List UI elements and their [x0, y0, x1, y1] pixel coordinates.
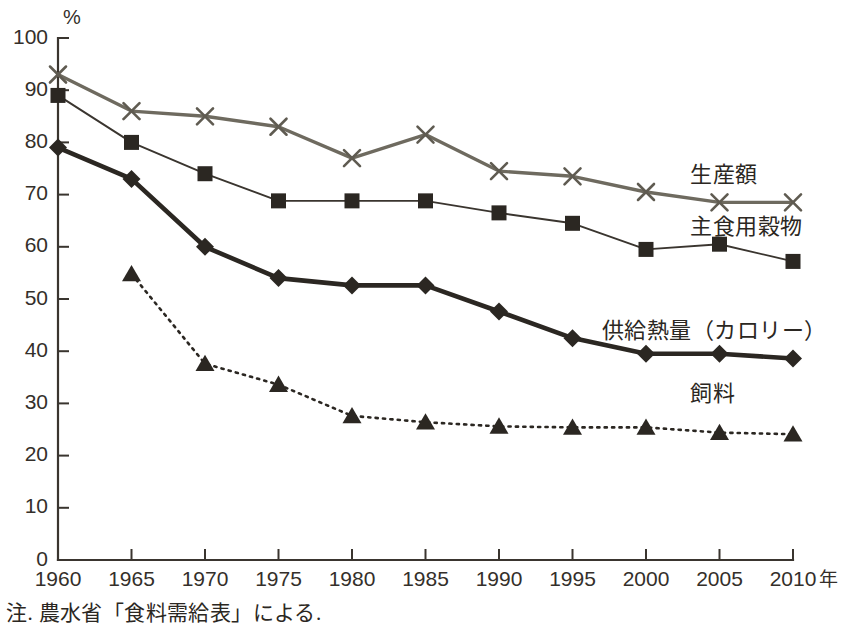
marker-square-staple-grain [271, 193, 286, 208]
series-line-staple-grain [58, 95, 793, 261]
chart-footnote: 注. 農水省「食料需給表」による. [6, 596, 322, 626]
marker-diamond-calorie [270, 269, 288, 287]
y-tick-label: 80 [25, 129, 48, 152]
marker-diamond-calorie [711, 345, 729, 363]
x-tick-label: 2005 [696, 567, 743, 590]
marker-diamond-calorie [49, 139, 67, 157]
x-tick-label: 1970 [182, 567, 229, 590]
x-tick-label: 2010 [770, 567, 817, 590]
y-tick-label: 60 [25, 233, 48, 256]
marker-square-staple-grain [639, 242, 654, 257]
y-tick-label: 90 [25, 77, 48, 100]
marker-diamond-calorie [417, 276, 435, 294]
x-tick-label: 1975 [255, 567, 302, 590]
y-tick-label: 100 [13, 25, 48, 48]
y-tick-label: 40 [25, 338, 48, 361]
x-tick-label: 1980 [329, 567, 376, 590]
series-staple-grain [51, 88, 801, 269]
series-label-feed: 飼料 [690, 381, 735, 406]
y-tick-label: 70 [25, 181, 48, 204]
marker-triangle-feed [563, 418, 582, 434]
series-label-production: 生産額 [690, 162, 758, 187]
x-axis-name-label: 年 [819, 569, 838, 590]
marker-square-staple-grain [565, 216, 580, 231]
marker-square-staple-grain [345, 193, 360, 208]
marker-triangle-feed [784, 425, 803, 441]
chart-container: 0102030405060708090100 19601965197019751… [0, 0, 858, 631]
x-tick-label: 1965 [108, 567, 155, 590]
marker-triangle-feed [122, 265, 141, 281]
x-axis-tick-labels: 1960196519701975198019851990199520002005… [35, 567, 817, 590]
axes-group [58, 38, 793, 560]
marker-diamond-calorie [637, 345, 655, 363]
y-tick-label: 10 [25, 494, 48, 517]
series-label-staple-grain: 主食用穀物 [690, 214, 803, 239]
marker-square-staple-grain [492, 205, 507, 220]
x-axis-ticks [58, 549, 793, 560]
y-tick-label: 50 [25, 286, 48, 309]
x-tick-label: 1995 [549, 567, 596, 590]
marker-square-staple-grain [124, 135, 139, 150]
y-tick-label: 30 [25, 390, 48, 413]
x-tick-label: 1985 [402, 567, 449, 590]
marker-square-staple-grain [786, 254, 801, 269]
marker-diamond-calorie [784, 350, 802, 368]
marker-square-staple-grain [198, 166, 213, 181]
marker-diamond-calorie [490, 303, 508, 321]
marker-triangle-feed [343, 407, 362, 423]
food-self-sufficiency-line-chart: 0102030405060708090100 19601965197019751… [0, 0, 858, 631]
series-label-calorie: 供給熱量（カロリー） [602, 318, 827, 343]
marker-triangle-feed [637, 418, 656, 434]
marker-square-staple-grain [712, 237, 727, 252]
y-axis-tick-labels: 0102030405060708090100 [13, 25, 48, 570]
series-production [50, 67, 801, 211]
marker-square-staple-grain [418, 193, 433, 208]
marker-triangle-feed [490, 417, 509, 433]
marker-triangle-feed [196, 355, 215, 371]
marker-triangle-feed [710, 424, 729, 440]
marker-diamond-calorie [343, 276, 361, 294]
y-axis-unit-label: % [63, 6, 81, 28]
marker-x-production [418, 127, 434, 143]
y-tick-label: 20 [25, 442, 48, 465]
x-tick-label: 2000 [623, 567, 670, 590]
y-axis-ticks [58, 38, 69, 560]
x-tick-label: 1990 [476, 567, 523, 590]
series-line-production [58, 75, 793, 203]
marker-square-staple-grain [51, 88, 66, 103]
marker-diamond-calorie [564, 329, 582, 347]
x-tick-label: 1960 [35, 567, 82, 590]
